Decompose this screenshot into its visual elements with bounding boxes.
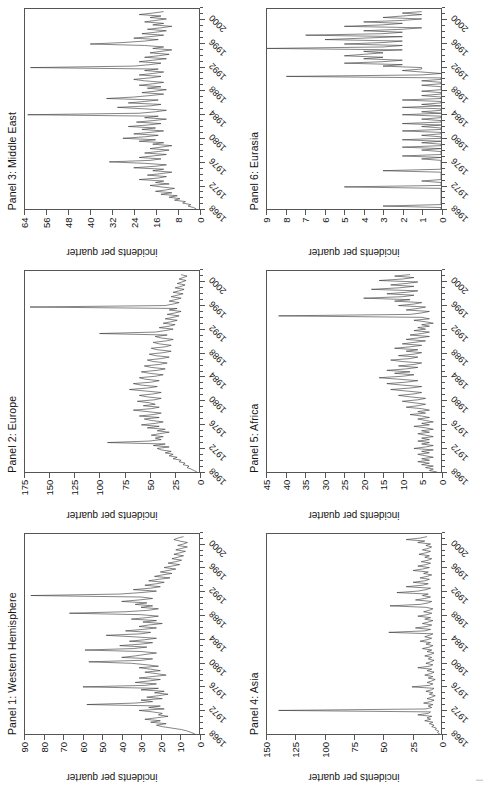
y-tick-mark bbox=[125, 473, 126, 478]
panel-europe: Panel 2: Europe incidents per quarter 02… bbox=[0, 262, 242, 524]
x-tick-label: 1992 bbox=[449, 60, 470, 81]
y-tick-mark bbox=[200, 210, 201, 215]
y-tick-label: 16 bbox=[151, 217, 162, 228]
y-tick-label: 35 bbox=[300, 480, 311, 491]
x-tick-minor bbox=[200, 692, 203, 693]
x-tick-minor bbox=[200, 633, 203, 634]
x-tick-minor bbox=[442, 412, 445, 413]
axis-frame bbox=[266, 533, 442, 735]
x-tick-major bbox=[200, 90, 205, 91]
y-tick-label: 5 bbox=[339, 217, 350, 222]
x-tick-minor bbox=[442, 532, 445, 533]
x-tick-minor bbox=[200, 675, 203, 676]
y-tick-mark bbox=[354, 735, 355, 740]
x-tick-major bbox=[442, 639, 447, 640]
x-tick-minor bbox=[442, 150, 445, 151]
y-tick-label: 30 bbox=[319, 480, 330, 491]
x-tick-minor bbox=[442, 579, 445, 580]
y-tick-label: 150 bbox=[44, 480, 55, 496]
y-tick-mark bbox=[46, 210, 47, 215]
y-tick-mark bbox=[24, 735, 25, 740]
y-axis: 0255075100125150 bbox=[266, 735, 442, 779]
x-tick-label: 1972 bbox=[207, 442, 228, 463]
y-tick-label: 50 bbox=[378, 742, 389, 753]
x-tick-minor bbox=[442, 698, 445, 699]
x-tick-major bbox=[200, 591, 205, 592]
x-tick-major bbox=[200, 329, 205, 330]
x-tick-major bbox=[200, 376, 205, 377]
x-tick-minor bbox=[442, 692, 445, 693]
y-tick-label: 125 bbox=[290, 742, 301, 758]
x-tick-major bbox=[200, 686, 205, 687]
x-tick-minor bbox=[200, 7, 203, 8]
x-tick-minor bbox=[442, 197, 445, 198]
x-tick-minor bbox=[442, 96, 445, 97]
y-axis: 0123456789 bbox=[266, 210, 442, 254]
x-tick-label: 1984 bbox=[449, 633, 470, 654]
x-tick-minor bbox=[442, 555, 445, 556]
panel-eurasia: Panel 6: Eurasia incidents per quarter 0… bbox=[242, 0, 484, 262]
x-tick-minor bbox=[200, 78, 203, 79]
y-tick-mark bbox=[383, 473, 384, 478]
x-tick-minor bbox=[200, 722, 203, 723]
series-line bbox=[267, 534, 441, 734]
x-tick-label: 1988 bbox=[449, 84, 470, 105]
x-tick-minor bbox=[442, 120, 445, 121]
plot-area: incidents per quarter 010203040506070809… bbox=[24, 533, 200, 735]
y-tick-label: 25 bbox=[169, 480, 180, 491]
x-tick-minor bbox=[442, 293, 445, 294]
y-tick-label: 50 bbox=[144, 480, 155, 491]
x-tick-major bbox=[442, 353, 447, 354]
x-tick-major bbox=[442, 591, 447, 592]
x-tick-major bbox=[442, 305, 447, 306]
x-tick-minor bbox=[442, 365, 445, 366]
x-tick-major bbox=[200, 162, 205, 163]
x-tick-minor bbox=[442, 550, 445, 551]
x-tick-major bbox=[442, 448, 447, 449]
y-tick-mark bbox=[122, 735, 123, 740]
x-tick-major bbox=[442, 615, 447, 616]
y-axis: 0255075100125150175 bbox=[24, 473, 200, 517]
y-tick-label: 24 bbox=[129, 217, 140, 228]
x-tick-label: 1984 bbox=[207, 370, 228, 391]
x-tick-label: 1968 bbox=[207, 728, 228, 749]
plot-area: incidents per quarter 051015202530354045… bbox=[266, 270, 442, 472]
panel-asia: Panel 4: Asia incidents per quarter 0255… bbox=[242, 525, 484, 787]
x-tick-label: 1980 bbox=[207, 657, 228, 678]
series-line bbox=[25, 9, 199, 209]
y-axis: 051015202530354045 bbox=[266, 473, 442, 517]
x-axis: 196819721976198019841988199219962000 bbox=[442, 270, 482, 472]
x-tick-minor bbox=[200, 61, 203, 62]
y-tick-mark bbox=[99, 473, 100, 478]
x-tick-major bbox=[442, 567, 447, 568]
x-tick-label: 1980 bbox=[449, 657, 470, 678]
y-tick-label: 150 bbox=[261, 742, 272, 758]
x-tick-label: 1972 bbox=[207, 179, 228, 200]
panel-title: Panel 1: Western Hemisphere bbox=[6, 592, 18, 735]
x-tick-minor bbox=[442, 126, 445, 127]
y-tick-mark bbox=[24, 210, 25, 215]
x-tick-minor bbox=[200, 341, 203, 342]
y-tick-label: 60 bbox=[77, 742, 88, 753]
series-polyline bbox=[267, 12, 441, 209]
x-tick-major bbox=[200, 19, 205, 20]
y-tick-label: 40 bbox=[116, 742, 127, 753]
y-tick-mark bbox=[200, 473, 201, 478]
x-tick-minor bbox=[200, 597, 203, 598]
x-tick-minor bbox=[200, 406, 203, 407]
x-tick-major bbox=[442, 734, 447, 735]
y-tick-label: 75 bbox=[119, 480, 130, 491]
panel-grid: Panel 1: Western Hemisphere incidents pe… bbox=[0, 0, 484, 787]
x-tick-minor bbox=[200, 31, 203, 32]
x-tick-label: 1972 bbox=[207, 704, 228, 725]
x-tick-minor bbox=[200, 13, 203, 14]
x-tick-major bbox=[442, 43, 447, 44]
x-tick-minor bbox=[442, 722, 445, 723]
x-tick-minor bbox=[200, 180, 203, 181]
x-tick-minor bbox=[200, 609, 203, 610]
x-tick-major bbox=[442, 472, 447, 473]
y-tick-mark bbox=[286, 473, 287, 478]
x-tick-minor bbox=[442, 609, 445, 610]
y-tick-mark bbox=[161, 735, 162, 740]
x-tick-label: 1992 bbox=[449, 585, 470, 606]
